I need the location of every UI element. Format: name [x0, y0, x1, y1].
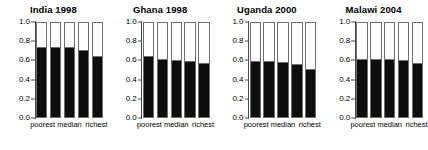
- y-axis-tick-label: 0.0: [232, 114, 243, 122]
- panel-title: India 1998: [0, 4, 107, 15]
- y-axis-tick: 0.4: [0, 80, 30, 81]
- y-axis-tick-mark: [351, 60, 355, 61]
- bar-fill-segment: [37, 47, 46, 117]
- y-axis-tick-mark: [351, 22, 355, 23]
- bar-fill-segment: [144, 56, 153, 117]
- x-axis-tick-label: median: [377, 121, 402, 129]
- x-axis-tick-label: richest: [192, 121, 214, 129]
- x-axis-tick-label: poorest: [350, 121, 375, 129]
- bar-group: [356, 22, 423, 118]
- stacked-bar: [184, 22, 195, 118]
- y-axis-tick-mark: [245, 98, 249, 99]
- stacked-bar: [36, 22, 47, 118]
- y-axis-tick: 0.8: [0, 41, 30, 42]
- x-axis-labels: poorestmedianrichest: [36, 121, 103, 133]
- bar-fill-segment: [51, 47, 60, 117]
- bar-group: [36, 22, 103, 118]
- chart-panel: India 19980.00.20.40.60.81.0poorestmedia…: [0, 0, 107, 150]
- stacked-bar: [370, 22, 381, 118]
- y-axis-tick-label: 0.6: [232, 56, 243, 64]
- stacked-bar: [250, 22, 261, 118]
- y-axis-tick-mark: [138, 98, 142, 99]
- panel-title: Malawi 2004: [320, 4, 427, 15]
- bar-fill-segment: [65, 47, 74, 117]
- y-axis-tick-mark: [31, 79, 35, 80]
- y-axis-tick-mark: [245, 60, 249, 61]
- x-axis-tick-label: poorest: [137, 121, 162, 129]
- y-axis-tick-label: 0.8: [232, 37, 243, 45]
- x-axis-tick-label: median: [164, 121, 189, 129]
- bar-fill-segment: [385, 59, 394, 117]
- x-axis-tick-label: richest: [85, 121, 107, 129]
- bar-fill-segment: [172, 60, 181, 117]
- y-axis-tick: 1.0: [214, 22, 244, 23]
- bar-fill-segment: [413, 63, 422, 117]
- stacked-bar: [398, 22, 409, 118]
- y-axis-tick: 0.0: [320, 118, 350, 119]
- bar-fill-segment: [306, 69, 315, 117]
- stacked-bar: [92, 22, 103, 118]
- y-axis-tick-label: 0.8: [19, 37, 30, 45]
- y-axis-tick-label: 0.8: [126, 37, 137, 45]
- panel-title: Ghana 1998: [107, 4, 214, 15]
- y-axis-tick-label: 0.6: [126, 56, 137, 64]
- y-axis-tick: 0.2: [0, 99, 30, 100]
- y-axis-tick-mark: [351, 41, 355, 42]
- y-axis-tick-label: 1.0: [232, 18, 243, 26]
- y-axis-tick-label: 0.2: [19, 95, 30, 103]
- y-axis-tick: 0.2: [214, 99, 244, 100]
- plot-area: [356, 22, 423, 118]
- plot-area: [143, 22, 210, 118]
- stacked-bar: [171, 22, 182, 118]
- bar-fill-segment: [278, 62, 287, 117]
- y-axis-tick-label: 0.4: [19, 76, 30, 84]
- stacked-bar: [277, 22, 288, 118]
- y-axis-tick-label: 0.0: [19, 114, 30, 122]
- y-axis-tick-mark: [31, 60, 35, 61]
- y-axis-tick-mark: [31, 41, 35, 42]
- y-axis-tick-label: 0.0: [126, 114, 137, 122]
- x-axis-tick-label: richest: [299, 121, 321, 129]
- x-axis-labels: poorestmedianrichest: [250, 121, 317, 133]
- stacked-bar: [263, 22, 274, 118]
- y-axis-tick: 0.6: [320, 60, 350, 61]
- stacked-bar: [157, 22, 168, 118]
- y-axis-tick: 0.0: [0, 118, 30, 119]
- bar-fill-segment: [199, 63, 208, 117]
- x-axis-tick-label: richest: [406, 121, 428, 129]
- bar-fill-segment: [251, 61, 260, 117]
- y-axis-tick-mark: [245, 22, 249, 23]
- y-axis-tick: 0.2: [107, 99, 137, 100]
- chart-panel: Ghana 19980.00.20.40.60.81.0poorestmedia…: [107, 0, 214, 150]
- y-axis-tick-mark: [245, 118, 249, 119]
- y-axis-tick-mark: [138, 60, 142, 61]
- y-axis-tick: 1.0: [107, 22, 137, 23]
- stacked-bar: [64, 22, 75, 118]
- bar-fill-segment: [93, 56, 102, 117]
- y-axis-tick: 0.6: [214, 60, 244, 61]
- panel-title: Uganda 2000: [214, 4, 321, 15]
- y-axis-tick: 0.4: [107, 80, 137, 81]
- bar-fill-segment: [264, 61, 273, 117]
- bar-group: [250, 22, 317, 118]
- y-axis-tick-mark: [351, 118, 355, 119]
- stacked-bar: [78, 22, 89, 118]
- y-axis-tick: 0.8: [320, 41, 350, 42]
- y-axis-tick-mark: [351, 79, 355, 80]
- y-axis-tick-label: 0.8: [339, 37, 350, 45]
- bar-fill-segment: [158, 59, 167, 117]
- y-axis-tick: 0.8: [107, 41, 137, 42]
- bar-fill-segment: [357, 59, 366, 117]
- y-axis-tick-label: 0.6: [19, 56, 30, 64]
- y-axis-tick-mark: [31, 22, 35, 23]
- y-axis-tick-mark: [138, 118, 142, 119]
- plot-area: [36, 22, 103, 118]
- y-axis-tick-mark: [31, 118, 35, 119]
- stacked-bar: [50, 22, 61, 118]
- y-axis-tick-label: 0.2: [232, 95, 243, 103]
- y-axis-tick: 0.8: [214, 41, 244, 42]
- bar-group: [143, 22, 210, 118]
- y-axis-tick-mark: [351, 98, 355, 99]
- y-axis-tick-mark: [245, 41, 249, 42]
